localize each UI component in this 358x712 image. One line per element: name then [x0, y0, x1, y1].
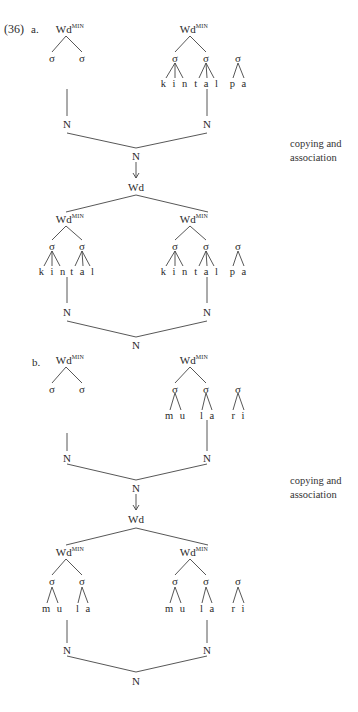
syllable-node: σ: [235, 53, 241, 64]
n-node: N: [63, 645, 71, 656]
syllable-node: σ: [203, 53, 209, 64]
n-node: N: [203, 453, 211, 464]
wd-min-node: WdMIN: [180, 23, 208, 35]
n-node: N: [63, 307, 71, 318]
syllable-node: σ: [235, 241, 241, 252]
segment-string: l a: [200, 604, 216, 615]
segment-string: m u: [165, 604, 187, 615]
subexample-label-a: a.: [31, 24, 39, 35]
syllable-node: σ: [49, 384, 55, 395]
syllable-node: σ: [172, 576, 178, 587]
wd-min-node: WdMIN: [56, 23, 84, 35]
wd-min-node: WdMIN: [180, 546, 208, 558]
syllable-node: σ: [79, 241, 85, 252]
n-node: N: [203, 645, 211, 656]
n-node-merged: N: [132, 340, 140, 351]
wd-min-node: WdMIN: [56, 213, 84, 225]
segment-string: k i n: [161, 267, 190, 278]
wd-min-node: WdMIN: [180, 354, 208, 366]
wd-min-node: WdMIN: [56, 354, 84, 366]
syllable-node: σ: [79, 384, 85, 395]
subexample-label-b: b.: [32, 357, 40, 368]
segment-string: t a l: [194, 79, 220, 90]
syllable-node: σ: [172, 53, 178, 64]
annotation-copying-association: copying and association: [290, 137, 342, 165]
segment-string: t a l: [70, 267, 96, 278]
syllable-node: σ: [203, 576, 209, 587]
n-node: N: [63, 119, 71, 130]
n-node-merged: N: [132, 676, 140, 687]
segment-string: k i n: [39, 267, 68, 278]
syllable-node: σ: [235, 384, 241, 395]
wd-node: Wd: [128, 514, 144, 525]
segment-string: l a: [200, 411, 216, 422]
segment-string: r i: [231, 411, 246, 422]
syllable-node: σ: [203, 241, 209, 252]
example-number: (36): [4, 23, 24, 35]
syllable-node: σ: [49, 53, 55, 64]
prosodic-tree-figure: …: [0, 0, 358, 712]
wd-min-node: WdMIN: [180, 213, 208, 225]
annotation-copying-association: copying and association: [290, 474, 342, 502]
segment-string: p a: [230, 267, 249, 278]
syllable-node: σ: [172, 241, 178, 252]
segment-string: k i n: [161, 79, 190, 90]
syllable-node: σ: [235, 576, 241, 587]
n-node: N: [203, 119, 211, 130]
wd-min-node: WdMIN: [56, 546, 84, 558]
segment-string: m u: [42, 604, 64, 615]
syllable-node: σ: [49, 576, 55, 587]
segment-string: t a l: [194, 267, 220, 278]
segment-string: p a: [230, 79, 249, 90]
segment-string: r i: [231, 604, 246, 615]
n-node: N: [63, 453, 71, 464]
wd-node: Wd: [128, 182, 144, 193]
syllable-node: σ: [79, 576, 85, 587]
n-node: N: [203, 307, 211, 318]
syllable-node: σ: [79, 53, 85, 64]
segment-string: m u: [165, 411, 187, 422]
n-node-merged: N: [132, 483, 140, 494]
syllable-node: σ: [203, 384, 209, 395]
segment-string: l a: [76, 604, 92, 615]
syllable-node: σ: [172, 384, 178, 395]
syllable-node: σ: [49, 241, 55, 252]
n-node-merged: N: [132, 151, 140, 162]
